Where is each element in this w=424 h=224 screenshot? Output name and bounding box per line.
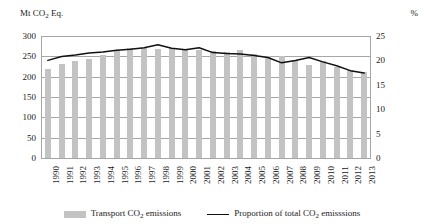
- right-tick-label: 0: [376, 154, 381, 163]
- legend-bar-swatch-icon: [64, 211, 86, 218]
- x-axis-label: 1992: [79, 166, 88, 184]
- x-axis-label: 2013: [368, 166, 377, 184]
- legend-line-label: Proportion of total CO2 emisssions: [234, 208, 360, 220]
- left-tick-label: 250: [0, 52, 36, 61]
- legend-line-swatch-icon: [207, 214, 229, 215]
- x-axis-label: 2009: [313, 166, 322, 184]
- transport-emissions-chart: Mt CO2 Eq. % 300250200150100500 25201510…: [0, 0, 424, 224]
- left-tick-label: 200: [0, 73, 36, 82]
- x-axis-label: 1999: [176, 166, 185, 184]
- line-series: [41, 36, 371, 158]
- right-tick-label: 5: [376, 130, 381, 139]
- left-axis-title-tail: Eq.: [49, 8, 64, 18]
- right-tick-label: 25: [376, 32, 385, 41]
- x-axis-label: 1995: [121, 166, 130, 184]
- proportion-line: [48, 45, 364, 73]
- x-axis-label: 2004: [244, 166, 253, 184]
- legend: Transport CO2 emissions Proportion of to…: [0, 208, 424, 220]
- legend-bar-label: Transport CO2 emissions: [91, 208, 182, 220]
- x-axis-label: 2003: [231, 166, 240, 184]
- x-axis-label: 2011: [341, 166, 350, 184]
- x-axis-label: 2005: [258, 166, 267, 184]
- right-tick-label: 15: [376, 81, 385, 90]
- x-axis-label: 1997: [148, 166, 157, 184]
- x-axis-label: 2006: [272, 166, 281, 184]
- x-axis-label: 1998: [162, 166, 171, 184]
- right-axis-title: %: [411, 8, 419, 18]
- x-axis-label: 1990: [52, 166, 61, 184]
- left-tick-label: 0: [0, 154, 36, 163]
- legend-item-line: Proportion of total CO2 emisssions: [207, 208, 360, 220]
- x-axis-label: 1996: [134, 166, 143, 184]
- left-axis-title-main: Mt CO: [20, 8, 45, 18]
- legend-item-bar: Transport CO2 emissions: [64, 208, 182, 220]
- plot-area: [41, 36, 371, 158]
- x-axis-label: 2001: [203, 166, 212, 184]
- x-axis-label: 2002: [217, 166, 226, 184]
- left-tick-label: 100: [0, 113, 36, 122]
- x-axis-label: 1993: [93, 166, 102, 184]
- x-axis-label: 1994: [107, 166, 116, 184]
- x-axis-label: 2012: [354, 166, 363, 184]
- left-axis-title: Mt CO2 Eq.: [20, 8, 63, 21]
- x-axis-label: 2010: [327, 166, 336, 184]
- x-axis-label: 2008: [299, 166, 308, 184]
- gridline: [41, 158, 371, 159]
- left-tick-label: 300: [0, 32, 36, 41]
- right-tick-label: 10: [376, 105, 385, 114]
- x-axis-label: 1991: [66, 166, 75, 184]
- right-tick-label: 20: [376, 56, 385, 65]
- x-axis-label: 2007: [286, 166, 295, 184]
- left-tick-label: 50: [0, 134, 36, 143]
- x-axis-label: 2000: [189, 166, 198, 184]
- left-tick-label: 150: [0, 93, 36, 102]
